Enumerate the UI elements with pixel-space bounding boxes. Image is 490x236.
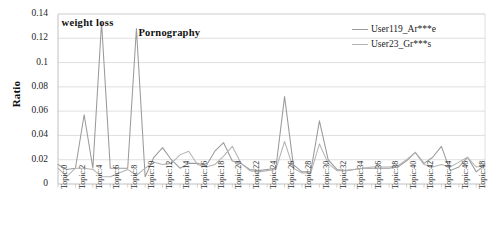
x-tick-label: Topic:2	[79, 165, 87, 189]
x-tick-label: Topic:16	[201, 161, 209, 189]
x-tick-label: Topic:32	[340, 161, 348, 189]
annotation-weight-loss: weight loss	[62, 17, 114, 28]
x-tick-label: Topic:18	[218, 161, 226, 189]
x-tick-label: Topic:38	[392, 161, 400, 189]
chart-container: 00.020.040.060.080.10.120.14 Ratio Topic…	[0, 0, 490, 236]
x-tick-label: Topic:40	[410, 161, 418, 189]
y-tick-label: 0.04	[8, 130, 48, 140]
x-tick-label: Topic:46	[462, 161, 470, 189]
y-tick-label: 0.12	[8, 33, 48, 43]
x-tick-label: Topic:30	[323, 161, 331, 189]
plot-area	[0, 0, 490, 236]
x-tick-label: Topic:0	[61, 165, 69, 189]
y-tick-label: 0.14	[8, 9, 48, 19]
legend-label: User23_Gr***s	[371, 39, 431, 49]
legend-entry: User119_Ar***e	[352, 24, 436, 34]
x-tick-label: Topic:24	[270, 161, 278, 189]
x-tick-label: Topic:14	[183, 161, 191, 189]
x-tick-label: Topic:4	[96, 165, 104, 189]
y-axis-label: Ratio	[10, 64, 22, 124]
legend-entry: User23_Gr***s	[352, 39, 431, 49]
line-chart-svg	[0, 0, 490, 236]
y-tick-label: 0.02	[8, 155, 48, 165]
x-tick-label: Topic:48	[479, 161, 487, 189]
x-tick-label: Topic:8	[131, 165, 139, 189]
y-tick-label: 0	[8, 179, 48, 189]
x-tick-label: Topic:34	[357, 161, 365, 189]
x-tick-label: Topic:36	[375, 161, 383, 189]
legend-label: User119_Ar***e	[371, 24, 436, 34]
legend-swatch-icon	[352, 29, 368, 30]
x-tick-label: Topic:44	[445, 161, 453, 189]
x-tick-label: Topic:10	[148, 161, 156, 189]
x-tick-label: Topic:22	[253, 161, 261, 189]
x-tick-label: Topic:42	[427, 161, 435, 189]
x-tick-label: Topic:6	[113, 165, 121, 189]
annotation-pornography: Pornography	[138, 27, 200, 38]
legend-swatch-icon	[352, 44, 368, 45]
x-tick-label: Topic:20	[235, 161, 243, 189]
x-tick-label: Topic:12	[166, 161, 174, 189]
x-tick-label: Topic:28	[305, 161, 313, 189]
x-tick-label: Topic:26	[288, 161, 296, 189]
